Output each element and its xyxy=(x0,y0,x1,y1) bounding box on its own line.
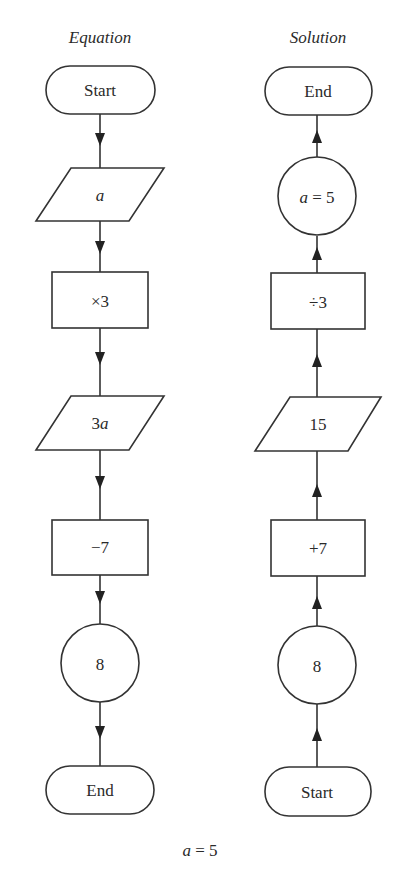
sol-input-label: 8 xyxy=(313,658,322,675)
eq-mid-label: 3a xyxy=(92,415,109,432)
arrow-up-icon xyxy=(312,247,322,260)
arrow-up-icon xyxy=(312,596,322,609)
sol-op2-label: ÷3 xyxy=(309,294,327,311)
eq-end-label: End xyxy=(86,782,113,799)
flowchart-canvas xyxy=(0,0,397,873)
eq-result-label: 8 xyxy=(96,656,105,673)
eq-start-label: Start xyxy=(84,82,116,99)
solution-column-title: Solution xyxy=(290,29,347,46)
diagram-caption: a = 5 xyxy=(182,842,217,859)
eq-input-label: a xyxy=(96,187,105,204)
eq-op2-label: −7 xyxy=(91,539,109,556)
arrow-up-icon xyxy=(312,130,322,143)
arrow-down-icon xyxy=(95,726,105,739)
equation-column-title: Equation xyxy=(69,29,131,46)
arrow-down-icon xyxy=(95,352,105,365)
arrow-down-icon xyxy=(95,133,105,146)
sol-op1-label: +7 xyxy=(309,540,327,557)
eq-op1-label: ×3 xyxy=(91,293,109,310)
arrow-up-icon xyxy=(312,484,322,497)
sol-mid-label: 15 xyxy=(310,416,327,433)
arrow-up-icon xyxy=(312,354,322,367)
sol-result-label: a = 5 xyxy=(299,189,334,206)
sol-start-label: Start xyxy=(301,784,333,801)
arrow-down-icon xyxy=(95,241,105,254)
sol-end-label: End xyxy=(304,83,331,100)
arrow-down-icon xyxy=(95,476,105,489)
arrow-up-icon xyxy=(312,728,322,741)
arrow-down-icon xyxy=(95,591,105,604)
